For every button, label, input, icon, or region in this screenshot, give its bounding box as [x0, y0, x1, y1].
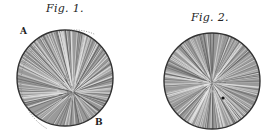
- fig-2-radial-disc: [164, 33, 260, 129]
- fig-1-radial-disc: [17, 30, 113, 128]
- engravings: [0, 0, 268, 137]
